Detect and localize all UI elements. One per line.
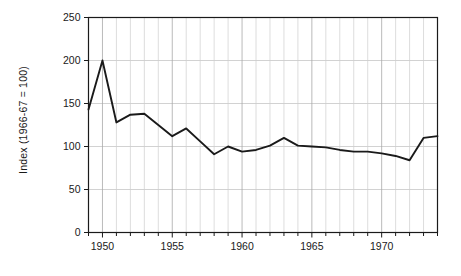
svg-text:1965: 1965: [300, 240, 324, 252]
vertical-gridlines: [102, 18, 423, 233]
svg-text:50: 50: [69, 183, 81, 195]
svg-text:250: 250: [63, 11, 81, 23]
svg-text:100: 100: [63, 140, 81, 152]
svg-text:1970: 1970: [370, 240, 394, 252]
line-chart-plot: 050100150200250 19501955196019651970: [0, 0, 461, 276]
chart-figure: Index (1966-67 = 100) 050100150200250 19…: [0, 0, 461, 276]
svg-text:0: 0: [75, 226, 81, 238]
horizontal-gridlines: [89, 61, 438, 190]
svg-text:1950: 1950: [91, 240, 115, 252]
data-series-line: [89, 61, 438, 161]
y-axis-ticks: [84, 18, 89, 233]
svg-text:200: 200: [63, 54, 81, 66]
svg-text:1955: 1955: [161, 240, 185, 252]
y-axis-tick-labels: 050100150200250: [63, 11, 81, 238]
svg-text:150: 150: [63, 97, 81, 109]
plot-frame: [89, 18, 438, 233]
x-axis-tick-labels: 19501955196019651970: [91, 240, 394, 252]
x-axis-ticks: [89, 233, 438, 238]
svg-text:1960: 1960: [230, 240, 254, 252]
